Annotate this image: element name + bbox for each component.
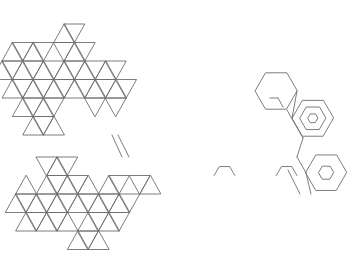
concentric-hexagon-inner-1 xyxy=(308,114,318,123)
triangle-cell xyxy=(109,213,130,232)
triangle-cell xyxy=(33,61,54,80)
triangle-cell xyxy=(12,61,33,80)
lattice-lower xyxy=(5,157,160,250)
diagonal-connector-right-e xyxy=(288,170,300,194)
triangle-cell xyxy=(109,176,130,195)
triangle-cell xyxy=(23,80,44,99)
triangle-cell xyxy=(116,80,137,99)
triangle-cell xyxy=(47,213,68,232)
triangle-cell xyxy=(74,61,95,80)
triangle-cell xyxy=(36,176,57,195)
triangle-cell xyxy=(98,194,119,213)
triangle-cell xyxy=(85,98,106,117)
triangle-cell xyxy=(88,194,109,213)
triangle-cell xyxy=(64,80,85,99)
concentric-hexagon-outer-2 xyxy=(306,155,347,191)
triangle-cell xyxy=(85,80,106,99)
triangle-cell xyxy=(2,61,23,80)
triangle-cell xyxy=(54,24,75,43)
outline-hexagon-right-upper xyxy=(255,73,297,109)
triangle-cell xyxy=(16,176,37,195)
concentric-hexagon-inner-2 xyxy=(319,166,334,179)
triangle-cell xyxy=(43,98,64,117)
triangle-cell xyxy=(95,80,116,99)
triangle-cell xyxy=(64,24,85,43)
triangle-cell xyxy=(33,43,54,62)
triangle-cell xyxy=(98,213,119,232)
diagonal-connector-left-b xyxy=(118,135,129,157)
triangle-cell xyxy=(33,98,54,117)
triangle-cell xyxy=(33,117,54,136)
triangle-cell xyxy=(5,194,26,213)
triangle-cell xyxy=(88,231,109,250)
triangle-cell xyxy=(106,98,127,117)
triangle-cell xyxy=(106,80,127,99)
triangle-cell xyxy=(67,231,88,250)
triangle-cell xyxy=(85,61,106,80)
triangle-cell xyxy=(106,61,127,80)
triangle-cell xyxy=(67,194,88,213)
triangle-cell xyxy=(95,61,116,80)
triangle-cell xyxy=(2,80,23,99)
triangle-cell xyxy=(88,213,109,232)
triangle-cell xyxy=(2,43,23,62)
triangle-lattice-layer xyxy=(0,24,161,250)
triangle-cell xyxy=(26,213,47,232)
triangle-cell xyxy=(57,194,78,213)
diagonal-connector-right-b xyxy=(297,138,303,157)
connector-layer xyxy=(112,91,311,194)
triangle-cell xyxy=(57,213,78,232)
diagonal-connector-right-a xyxy=(287,110,303,138)
triangle-cell xyxy=(26,194,47,213)
triangle-cell xyxy=(43,80,64,99)
triangle-cell xyxy=(47,176,68,195)
triangle-cell xyxy=(12,80,33,99)
triangle-cell xyxy=(16,194,37,213)
triangle-cell xyxy=(98,176,119,195)
triangle-cell xyxy=(43,61,64,80)
bump-hexagon-lower-2 xyxy=(276,167,297,176)
triangle-cell xyxy=(54,43,75,62)
notch-upper-b xyxy=(278,98,283,107)
triangle-cell xyxy=(33,80,54,99)
triangle-cell xyxy=(12,98,33,117)
triangle-cell xyxy=(74,80,95,99)
triangle-cell xyxy=(54,61,75,80)
triangle-cell xyxy=(12,43,33,62)
diagonal-connector-right-d xyxy=(306,173,311,194)
diagram-canvas xyxy=(0,0,352,273)
bump-hexagon-lower-1 xyxy=(214,167,235,176)
diagonal-connector-right-c xyxy=(297,157,306,173)
triangle-cell xyxy=(140,176,161,195)
triangle-cell xyxy=(57,176,78,195)
concentric-hexagon-middle-1 xyxy=(300,107,326,130)
diagonal-connector-left-a xyxy=(112,135,122,157)
triangle-cell xyxy=(78,176,99,195)
lattice-upper xyxy=(0,24,137,135)
triangle-cell xyxy=(109,194,130,213)
triangle-cell xyxy=(16,213,37,232)
triangle-cell xyxy=(78,213,99,232)
triangle-cell xyxy=(36,194,57,213)
triangle-cell xyxy=(36,157,57,176)
triangle-cell xyxy=(57,157,78,176)
triangle-cell xyxy=(36,213,57,232)
triangle-cell xyxy=(64,43,85,62)
triangle-cell xyxy=(129,176,150,195)
triangle-cell xyxy=(74,43,95,62)
triangular-grid-diagram xyxy=(0,0,352,273)
triangle-cell xyxy=(119,194,140,213)
triangle-cell xyxy=(54,80,75,99)
triangle-cell xyxy=(67,176,88,195)
triangle-cell xyxy=(78,194,99,213)
triangle-cell xyxy=(23,43,44,62)
triangle-cell xyxy=(64,61,85,80)
triangle-cell xyxy=(23,98,44,117)
triangle-cell xyxy=(43,117,64,136)
concentric-hexagon-outer-1 xyxy=(292,100,333,136)
triangle-cell xyxy=(78,231,99,250)
triangle-cell xyxy=(23,117,44,136)
triangle-cell xyxy=(47,194,68,213)
hexagon-layer xyxy=(214,73,346,191)
triangle-cell xyxy=(47,157,68,176)
